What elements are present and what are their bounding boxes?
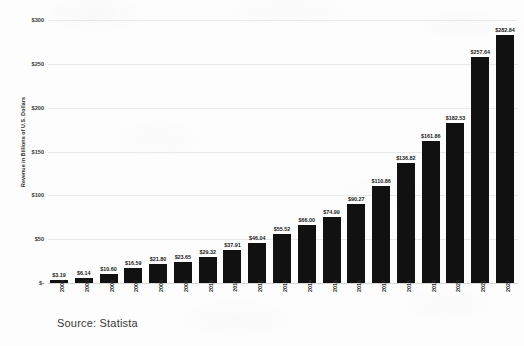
x-axis-tick-label: 2020: [455, 280, 461, 292]
y-axis-tick-label: $150: [32, 149, 44, 155]
bar-rect[interactable]: [223, 250, 241, 283]
x-axis-tick-label: 2007: [133, 280, 139, 292]
y-axis-tick-label: $50: [35, 236, 44, 242]
bar-value-label: $66.00: [299, 217, 316, 223]
bar-rect[interactable]: [347, 204, 365, 283]
x-axis-tick-label: 2016: [356, 280, 362, 292]
bar-rect[interactable]: [397, 163, 415, 283]
x-axis-tick-label: 2014: [307, 280, 313, 292]
bar-rect[interactable]: [422, 141, 440, 283]
y-axis-title: Revenue in Billions of U.S. Dollars: [16, 0, 30, 283]
x-axis-tick-label: 2022: [505, 280, 511, 292]
bar-value-label: $21.80: [150, 256, 167, 262]
x-axis-tick-label: 2019: [431, 280, 437, 292]
bar-group[interactable]: $46.042012: [248, 20, 266, 283]
y-axis-tick-label: $-: [39, 280, 44, 286]
bar-group[interactable]: $257.642021: [471, 20, 489, 283]
bar-value-label: $257.64: [470, 49, 490, 55]
y-axis-tick-label: $250: [32, 61, 44, 67]
bar-group[interactable]: $23.652009: [174, 20, 192, 283]
bar-group[interactable]: $10.602006: [100, 20, 118, 283]
bar-value-label: $37.91: [224, 242, 241, 248]
bar-value-label: $10.60: [100, 266, 117, 272]
x-axis-tick-label: 2005: [84, 280, 90, 292]
bar-value-label: $182.53: [446, 115, 466, 121]
bar-group[interactable]: $66.002014: [298, 20, 316, 283]
bar-rect[interactable]: [372, 186, 390, 283]
bar-group[interactable]: $161.862019: [422, 20, 440, 283]
source-caption: Source: Statista: [57, 317, 138, 329]
bar-value-label: $6.14: [77, 270, 91, 276]
bar-rect[interactable]: [273, 234, 291, 283]
bar-value-label: $110.86: [372, 178, 391, 184]
y-axis-tick-label: $200: [32, 105, 44, 111]
x-axis-tick-label: 2012: [257, 280, 263, 292]
x-axis-tick-label: 2018: [406, 280, 412, 292]
bar-group[interactable]: $90.272016: [347, 20, 365, 283]
bar-group[interactable]: $29.322010: [199, 20, 217, 283]
bar-value-label: $282.84: [495, 27, 515, 33]
bar-value-label: $16.59: [125, 260, 142, 266]
bar-group[interactable]: $21.802008: [149, 20, 167, 283]
x-axis-tick-label: 2010: [208, 280, 214, 292]
bar-group[interactable]: $55.522013: [273, 20, 291, 283]
bar-group[interactable]: $282.842022: [496, 20, 514, 283]
y-axis-tick-label: $300: [32, 17, 44, 23]
bar-value-label: $46.04: [249, 235, 266, 241]
bar-value-label: $3.19: [52, 272, 66, 278]
plot-area: $-$50$100$150$200$250$300 $3.192004$6.14…: [48, 20, 518, 283]
bar-value-label: $55.52: [274, 226, 291, 232]
bar-rect[interactable]: [471, 57, 489, 283]
bar-value-label: $29.32: [199, 249, 216, 255]
bar-group[interactable]: $136.822018: [397, 20, 415, 283]
x-axis-tick-label: 2009: [183, 280, 189, 292]
bar-group[interactable]: $16.592007: [124, 20, 142, 283]
bar-value-label: $74.99: [323, 209, 340, 215]
x-axis-tick-label: 2015: [332, 280, 338, 292]
bar-group[interactable]: $6.142005: [75, 20, 93, 283]
bar-group[interactable]: $37.912011: [223, 20, 241, 283]
x-axis-tick-label: 2013: [282, 280, 288, 292]
y-axis-tick-label: $100: [32, 192, 44, 198]
bar-rect[interactable]: [298, 225, 316, 283]
x-axis-tick-label: 2006: [109, 280, 115, 292]
bar-rect[interactable]: [323, 217, 341, 283]
x-axis-tick-label: 2011: [232, 280, 238, 292]
bars-layer: $3.192004$6.142005$10.602006$16.592007$2…: [48, 20, 518, 283]
bar-chart-figure: Revenue in Billions of U.S. Dollars $-$5…: [0, 0, 524, 346]
bar-rect[interactable]: [248, 243, 266, 283]
y-axis-title-label: Revenue in Billions of U.S. Dollars: [20, 96, 26, 186]
bar-group[interactable]: $3.192004: [50, 20, 68, 283]
bar-rect[interactable]: [496, 35, 514, 283]
bar-value-label: $136.82: [396, 155, 416, 161]
bar-value-label: $161.86: [421, 133, 441, 139]
bar-group[interactable]: $110.862017: [372, 20, 390, 283]
x-axis-tick-label: 2017: [381, 280, 387, 292]
x-axis-tick-label: 2021: [480, 280, 486, 292]
bar-group[interactable]: $182.532020: [446, 20, 464, 283]
bar-rect[interactable]: [446, 123, 464, 283]
x-axis-tick-label: 2004: [59, 280, 65, 292]
bar-value-label: $23.65: [175, 254, 192, 260]
x-axis-tick-label: 2008: [158, 280, 164, 292]
bar-value-label: $90.27: [348, 196, 365, 202]
bar-group[interactable]: $74.992015: [323, 20, 341, 283]
